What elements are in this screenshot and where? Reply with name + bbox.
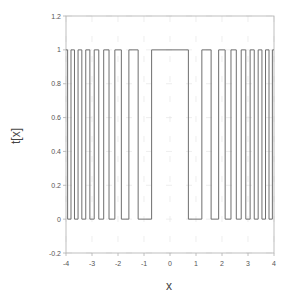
x-tick-label: 3 xyxy=(246,260,250,267)
x-tick-label: -4 xyxy=(63,260,69,267)
y-tick-label: 1.2 xyxy=(51,13,61,20)
x-tick-label: -1 xyxy=(141,260,147,267)
x-tick-label: 4 xyxy=(272,260,276,267)
step-series-line xyxy=(66,50,274,219)
x-tick-label: 1 xyxy=(194,260,198,267)
x-tick-label: 2 xyxy=(220,260,224,267)
y-axis-ticks: -0.200.20.40.60.811.2 xyxy=(49,13,66,257)
grid-lines xyxy=(66,16,274,253)
x-axis-label: x xyxy=(166,279,172,293)
y-tick-label: 0.4 xyxy=(51,148,61,155)
x-tick-label: 0 xyxy=(168,260,172,267)
x-axis-ticks: -4-3-2-101234 xyxy=(63,253,276,267)
y-axis-label: t[x] xyxy=(9,128,23,144)
y-tick-label: 0 xyxy=(57,216,61,223)
y-tick-label: 1 xyxy=(57,46,61,53)
x-tick-label: -3 xyxy=(89,260,95,267)
y-tick-label: 0.6 xyxy=(51,114,61,121)
y-tick-label: -0.2 xyxy=(49,250,61,257)
y-tick-label: 0.8 xyxy=(51,80,61,87)
y-tick-label: 0.2 xyxy=(51,182,61,189)
x-tick-label: -2 xyxy=(115,260,121,267)
step-function-chart: -0.200.20.40.60.811.2 -4-3-2-101234 t[x]… xyxy=(0,0,290,301)
